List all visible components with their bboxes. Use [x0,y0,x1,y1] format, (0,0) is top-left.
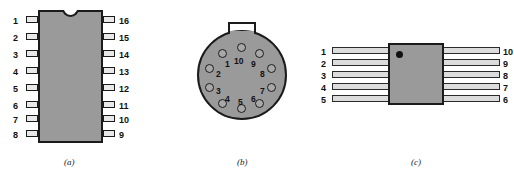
can-hole-7 [267,83,276,92]
flat-lead-2 [332,59,390,66]
dip-pin-left-1 [26,16,38,23]
flat-label-3: 3 [321,72,326,81]
flat-label-9: 9 [503,60,508,69]
flat-label-4: 4 [321,84,326,93]
flat-lead-8 [442,71,500,78]
dip-label-15: 15 [119,34,129,43]
flat-lead-10 [442,47,500,54]
flat-lead-1 [332,47,390,54]
dip-pin-right-11 [103,101,115,108]
dip-label-7: 7 [13,116,18,125]
can-label-5: 5 [238,98,243,107]
package-flat: 1 2 3 4 5 10 9 8 7 6 (c) [318,0,514,176]
can-tab-join [230,31,254,37]
dip-pin-left-3 [26,50,38,57]
dip-label-9: 9 [119,131,124,140]
dip-label-10: 10 [119,116,129,125]
flat-lead-7 [442,83,500,90]
dip-label-13: 13 [119,68,129,77]
dip-pin-right-10 [103,115,115,122]
dip-label-11: 11 [119,102,129,111]
can-label-10: 10 [234,57,243,66]
dip-pin-left-8 [26,130,38,137]
dip-notch-fill [62,7,79,10]
dip-body [38,10,103,143]
can-label-3: 3 [216,87,221,96]
dip-label-4: 4 [13,68,18,77]
flat-label-10: 10 [503,48,513,57]
can-label-4: 4 [225,95,230,104]
figure-canvas: 1 2 3 4 5 6 7 8 16 15 14 13 12 11 10 9 (… [0,0,514,176]
can-hole-2 [205,64,214,73]
can-label-8: 8 [260,70,265,79]
dip-pin-left-7 [26,115,38,122]
pin1-marker-dot-icon [396,51,403,58]
flat-lead-6 [442,95,500,102]
caption-a: (a) [64,157,75,167]
flat-lead-9 [442,59,500,66]
package-round-can: 1 2 3 4 5 6 7 8 9 10 (b) [176,0,336,176]
flat-label-6: 6 [503,96,508,105]
flat-lead-5 [332,95,390,102]
flat-lead-4 [332,83,390,90]
dip-pin-right-12 [103,84,115,91]
can-hole-8 [267,64,276,73]
dip-pin-right-14 [103,50,115,57]
flat-label-8: 8 [503,72,508,81]
dip-pin-left-4 [26,67,38,74]
dip-label-1: 1 [13,17,18,26]
can-label-1: 1 [225,60,230,69]
dip-pin-left-5 [26,84,38,91]
dip-label-8: 8 [13,131,18,140]
flat-label-1: 1 [321,48,326,57]
can-label-7: 7 [260,87,265,96]
dip-pin-right-15 [103,33,115,40]
can-label-9: 9 [251,60,256,69]
dip-label-5: 5 [13,85,18,94]
flat-label-5: 5 [321,96,326,105]
dip-label-3: 3 [13,51,18,60]
can-hole-1 [218,49,227,58]
flat-lead-3 [332,71,390,78]
dip-pin-right-13 [103,67,115,74]
can-hole-9 [255,49,264,58]
can-hole-6 [255,99,264,108]
dip-pin-right-16 [103,16,115,23]
dip-label-6: 6 [13,102,18,111]
dip-label-14: 14 [119,51,129,60]
can-label-6: 6 [251,95,256,104]
can-hole-3 [205,83,214,92]
dip-pin-right-9 [103,130,115,137]
caption-b: (b) [237,157,248,167]
can-hole-10 [237,43,246,52]
flat-label-2: 2 [321,60,326,69]
dip-label-2: 2 [13,34,18,43]
package-dip: 1 2 3 4 5 6 7 8 16 15 14 13 12 11 10 9 (… [0,0,176,176]
can-label-2: 2 [216,70,221,79]
caption-c: (c) [411,157,421,167]
dip-pin-left-2 [26,33,38,40]
dip-label-16: 16 [119,17,129,26]
dip-label-12: 12 [119,85,129,94]
flat-label-7: 7 [503,84,508,93]
dip-pin-left-6 [26,101,38,108]
